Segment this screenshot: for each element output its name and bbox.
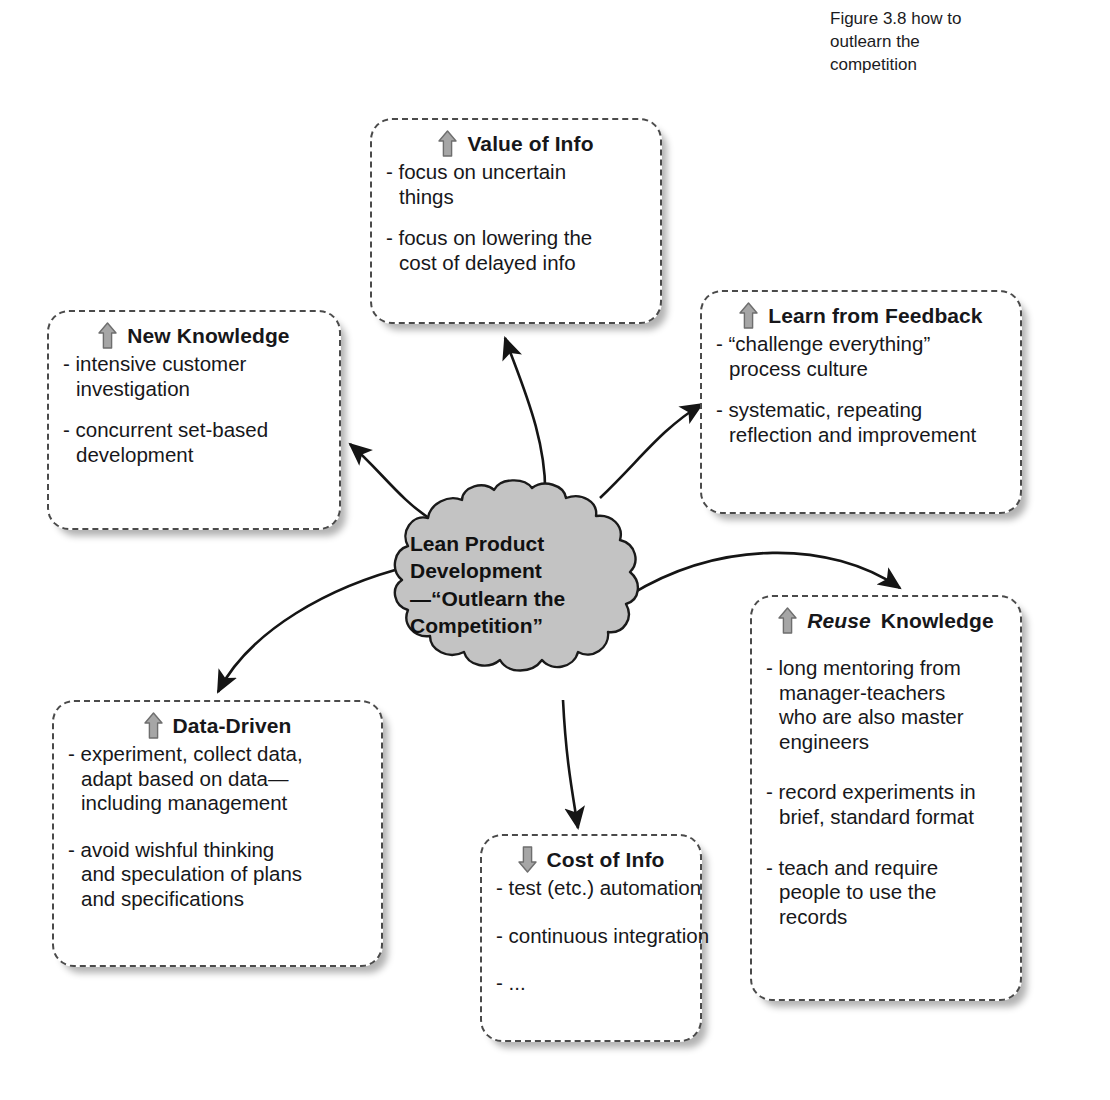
bullet-line: - continuous integration [496, 924, 686, 949]
bullet-item: - focus on lowering the cost of delayed … [386, 226, 646, 275]
node-reuse-knowledge[interactable]: Reuse Knowledge - long mentoring from ma… [750, 595, 1022, 1001]
node-title-cost-of-info: Cost of Info [496, 846, 686, 873]
bullet-line: brief, standard format [766, 805, 1006, 830]
node-bullets-value-of-info: - focus on uncertain things - focus on l… [386, 160, 646, 275]
bullet-line: things [386, 185, 646, 210]
connector-to-cost-of-info [563, 700, 578, 828]
node-title-emphasis: Reuse [807, 609, 871, 633]
bullet-line: adapt based on data— [68, 767, 367, 792]
lean-product-development-cloud[interactable]: Lean Product Development —“Outlearn the … [388, 478, 656, 714]
bullet-item: - “challenge everything” process culture [716, 332, 1006, 381]
node-title-text: Learn from Feedback [768, 304, 982, 328]
node-bullets-learn-from-feedback: - “challenge everything” process culture… [716, 332, 1006, 447]
up-arrow-icon [739, 302, 758, 329]
node-title-text: New Knowledge [127, 324, 289, 348]
bullet-line: - teach and require [766, 856, 1006, 881]
bullet-item: - intensive customer investigation [63, 352, 325, 401]
up-arrow-icon [98, 322, 117, 349]
cloud-label-line: Lean Product [410, 530, 640, 557]
bullet-item: - concurrent set-based development [63, 418, 325, 467]
bullet-line: - long mentoring from [766, 656, 1006, 681]
bullet-item: - long mentoring from manager-teachers w… [766, 656, 1006, 754]
bullet-line: reflection and improvement [716, 423, 1006, 448]
bullet-line: - record experiments in [766, 780, 1006, 805]
bullet-item: - teach and require people to use the re… [766, 856, 1006, 930]
bullet-line: development [63, 443, 325, 468]
node-data-driven[interactable]: Data-Driven - experiment, collect data, … [52, 700, 383, 967]
bullet-line: - “challenge everything” [716, 332, 1006, 357]
figure-caption-line: Figure 3.8 how to [830, 8, 1050, 31]
bullet-line: and specifications [68, 887, 367, 912]
bullet-item: - avoid wishful thinking and speculation… [68, 838, 367, 912]
bullet-line: investigation [63, 377, 325, 402]
figure-canvas: Figure 3.8 how to outlearn the competiti… [0, 0, 1110, 1100]
bullet-line: - experiment, collect data, [68, 742, 367, 767]
node-title-emphasis-text: Reuse [807, 609, 871, 632]
node-title-text: Knowledge [881, 609, 994, 633]
up-arrow-icon [144, 712, 163, 739]
bullet-line: who are also master [766, 705, 1006, 730]
cloud-label-line: —“Outlearn the [410, 585, 640, 612]
node-value-of-info[interactable]: Value of Info - focus on uncertain thing… [370, 118, 662, 324]
bullet-item: - systematic, repeating reflection and i… [716, 398, 1006, 447]
bullet-line: people to use the [766, 880, 1006, 905]
node-bullets-reuse-knowledge: - long mentoring from manager-teachers w… [766, 656, 1006, 929]
bullet-line: - intensive customer [63, 352, 325, 377]
up-arrow-icon [438, 130, 457, 157]
connector-to-value-of-info [505, 338, 545, 500]
bullet-line: - test (etc.) automation [496, 876, 686, 901]
node-title-data-driven: Data-Driven [68, 712, 367, 739]
node-title-reuse-knowledge: Reuse Knowledge [766, 607, 1006, 634]
cloud-label-line: Competition” [410, 612, 640, 639]
bullet-line: process culture [716, 357, 1006, 382]
up-arrow-icon [778, 607, 797, 634]
bullet-line: cost of delayed info [386, 251, 646, 276]
bullet-line: - concurrent set-based [63, 418, 325, 443]
node-learn-from-feedback[interactable]: Learn from Feedback - “challenge everyth… [700, 290, 1022, 514]
node-bullets-cost-of-info: - test (etc.) automation - continuous in… [496, 876, 686, 996]
bullet-item: - test (etc.) automation [496, 876, 686, 901]
bullet-item: - focus on uncertain things [386, 160, 646, 209]
bullet-item: - experiment, collect data, adapt based … [68, 742, 367, 816]
node-cost-of-info[interactable]: Cost of Info - test (etc.) automation - … [480, 834, 702, 1042]
figure-caption-line: competition [830, 54, 1050, 77]
bullet-line: engineers [766, 730, 1006, 755]
node-bullets-new-knowledge: - intensive customer investigation - con… [63, 352, 325, 467]
bullet-line: and speculation of plans [68, 862, 367, 887]
node-bullets-data-driven: - experiment, collect data, adapt based … [68, 742, 367, 912]
bullet-line: manager-teachers [766, 681, 1006, 706]
node-title-value-of-info: Value of Info [386, 130, 646, 157]
cloud-label-line: Development [410, 557, 640, 584]
connector-to-data-driven [218, 566, 410, 692]
node-title-text: Cost of Info [547, 848, 665, 872]
bullet-item: - ... [496, 971, 686, 996]
cloud-label: Lean Product Development —“Outlearn the … [410, 530, 640, 639]
node-title-text: Value of Info [467, 132, 593, 156]
bullet-item: - continuous integration [496, 924, 686, 949]
node-new-knowledge[interactable]: New Knowledge - intensive customer inves… [47, 310, 341, 530]
bullet-line: - focus on lowering the [386, 226, 646, 251]
bullet-item: - record experiments in brief, standard … [766, 780, 1006, 829]
connector-to-reuse-knowledge [630, 553, 900, 595]
bullet-line: records [766, 905, 1006, 930]
node-title-learn-from-feedback: Learn from Feedback [716, 302, 1006, 329]
node-title-new-knowledge: New Knowledge [63, 322, 325, 349]
bullet-line: - ... [496, 971, 686, 996]
bullet-line: including management [68, 791, 367, 816]
down-arrow-icon [518, 846, 537, 873]
node-title-text: Data-Driven [173, 714, 292, 738]
figure-caption: Figure 3.8 how to outlearn the competiti… [830, 8, 1050, 77]
bullet-line: - avoid wishful thinking [68, 838, 367, 863]
bullet-line: - focus on uncertain [386, 160, 646, 185]
bullet-line: - systematic, repeating [716, 398, 1006, 423]
figure-caption-line: outlearn the [830, 31, 1050, 54]
